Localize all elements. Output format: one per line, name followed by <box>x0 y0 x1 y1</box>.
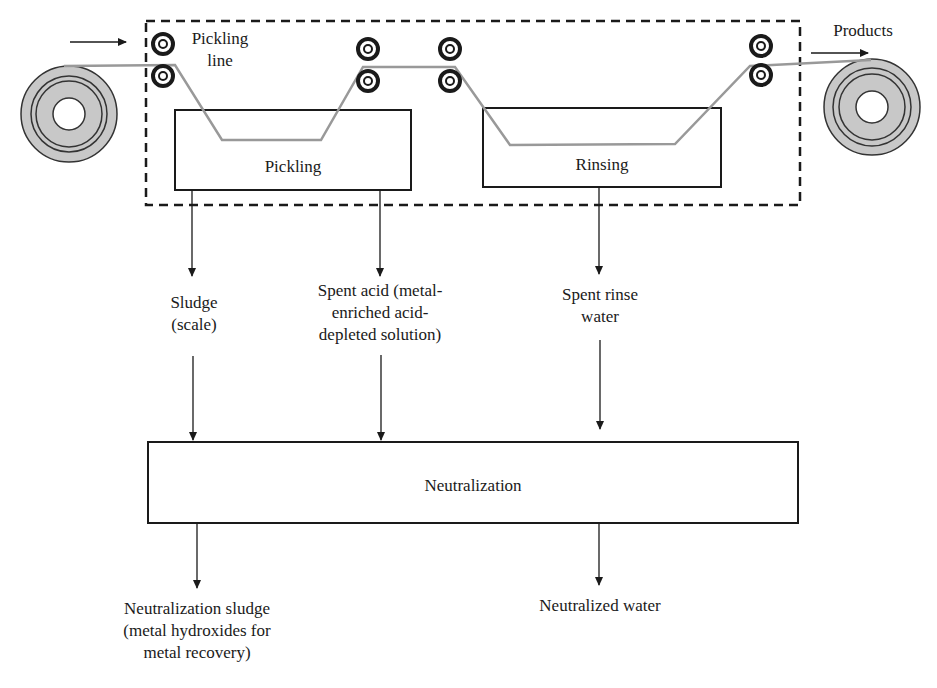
input-coil-icon <box>21 66 117 162</box>
roller-pair-2-icon <box>358 39 378 91</box>
rinsing-tank-label: Rinsing <box>483 154 721 176</box>
products-label: Products <box>818 20 908 42</box>
pickling-line-label: Pickling line <box>185 28 255 72</box>
pickling-tank-label: Pickling <box>175 156 411 178</box>
neutralized-water-label: Neutralized water <box>510 595 690 617</box>
neutralization-label: Neutralization <box>148 475 798 497</box>
neutralization-sludge-label: Neutralization sludge (metal hydroxides … <box>92 598 302 664</box>
sludge-label: Sludge (scale) <box>142 292 246 336</box>
roller-pair-1-icon <box>153 34 173 86</box>
product-coil-icon <box>824 59 920 155</box>
spent-acid-label: Spent acid (metal- enriched acid- deplet… <box>290 280 470 346</box>
spent-rinse-water-label: Spent rinse water <box>540 284 660 328</box>
roller-pair-3-icon <box>440 39 460 91</box>
roller-pair-4-icon <box>751 36 771 85</box>
